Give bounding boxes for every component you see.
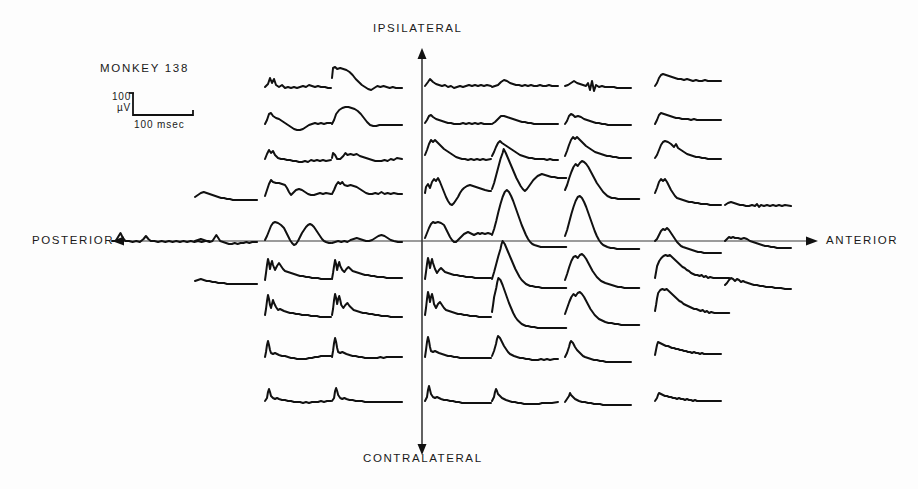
trace-r8-c6 [565,393,631,405]
trace-r4-c5 [492,190,566,247]
trace-r4-c4 [425,222,491,242]
trace-r5-c5 [492,241,566,288]
trace-r4-c3 [332,235,402,243]
trace-r4-c8 [725,237,791,248]
trace-r7-c5 [492,336,558,360]
axis-label-anterior: ANTERIOR [826,234,898,246]
trace-r0-c5 [492,80,558,87]
trace-r5-c3 [332,260,402,279]
trace-r3-c6 [565,161,639,199]
trace-r3-c1 [195,192,257,200]
trace-r7-c7 [655,342,721,355]
trace-r5-c8 [725,278,791,289]
trace-r0-c4 [425,79,491,88]
trace-r2-c2 [265,150,331,162]
trace-r3-c2 [265,180,331,196]
trace-r8-c3 [332,388,402,402]
subject-label: MONKEY 138 [100,62,189,74]
trace-r6-c4 [425,292,491,317]
trace-r2-c4 [425,140,491,160]
trace-r3-c4 [425,178,491,205]
trace-r7-c4 [425,337,491,358]
trace-r2-c6 [565,137,631,158]
trace-layer [112,67,791,405]
axis-label-contralateral: CONTRALATERAL [363,452,483,464]
trace-r8-c4 [425,386,491,403]
trace-r7-c2 [265,341,331,359]
trace-r8-c2 [265,389,331,403]
trace-r3-c3 [332,182,402,194]
trace-r7-c3 [332,338,402,358]
trace-r8-c7 [655,393,721,401]
trace-r3-c5 [492,149,566,191]
trace-r6-c2 [265,295,331,317]
trace-r3-c8 [725,202,791,207]
trace-r5-c2 [265,259,331,280]
trace-r1-c2 [265,113,331,130]
trace-r1-c4 [425,115,491,124]
trace-r2-c7 [655,141,721,159]
trace-r5-c4 [425,258,491,279]
trace-r0-c6 [565,81,631,91]
trace-r1-c5 [492,116,558,124]
calibration-bar [129,93,193,116]
trace-r1-c7 [655,113,721,124]
trace-r0-c2 [265,78,331,88]
trace-r8-c5 [492,389,558,404]
trace-r6-c6 [565,292,639,325]
axis-layer [112,48,818,455]
trace-r1-c6 [565,114,631,125]
trace-r4-c1 [195,235,257,244]
calibration-amplitude-label: 100µV [101,91,131,113]
trace-r3-c7 [655,179,721,205]
evoked-potential-figure: IPSILATERAL CONTRALATERAL POSTERIOR ANTE… [0,0,918,489]
trace-r5-c7 [655,255,729,278]
calibration-time-label: 100 msec [134,119,185,130]
trace-r1-c3 [332,107,402,126]
trace-r6-c3 [332,294,402,317]
axis-label-ipsilateral: IPSILATERAL [373,22,463,34]
trace-r2-c3 [332,153,402,161]
trace-r5-c0 [195,279,257,284]
trace-r0-c3 [332,67,402,90]
axis-label-posterior: POSTERIOR [32,234,114,246]
trace-r0-c7 [655,74,721,86]
trace-r7-c6 [565,341,631,362]
trace-r5-c6 [565,254,639,288]
trace-r6-c7 [655,289,729,313]
